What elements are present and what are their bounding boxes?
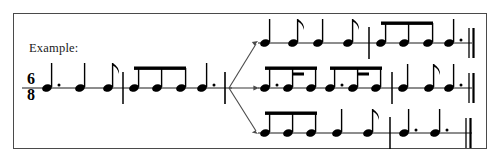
branch-arrows [229,41,259,134]
note-bottom-4-quarter [331,109,343,138]
note-middle-6-eighth [370,68,382,93]
note-top-3-quarter [312,19,324,48]
note-top-2-eighth [287,19,304,48]
note-middle-3-eighth [305,68,317,93]
note-bottom-5-eighth [362,109,379,138]
beam-group-bottom-1 [259,112,317,139]
note-middle-2-sixteenth [282,68,294,93]
beam-group-source-1 [128,67,187,94]
note-bottom-1-eighth [259,113,271,138]
beam-group-middle-2 [324,67,382,94]
note-bottom-2-eighth [282,113,294,138]
note-top-5-eighth [375,23,387,48]
note-middle-8-eighth [423,64,440,93]
music-notation-canvas [0,0,503,165]
note-source-7-dotted-quarter [196,63,215,93]
note-middle-1-dotted-eighth [259,68,278,93]
note-top-8-dotted-quarter [443,19,462,48]
branch-arrow-top [229,41,258,88]
note-source-1-dotted-quarter [41,63,60,93]
branch-arrow-bottom [229,88,258,134]
note-source-6-eighth [175,68,187,93]
variation-staff-middle [258,64,474,104]
note-top-7-eighth [422,23,434,48]
note-bottom-6-dotted-quarter [398,109,417,138]
note-top-1-quarter [259,19,271,48]
note-middle-5-sixteenth [347,68,359,93]
variation-staff-top [258,19,474,59]
note-bottom-7-dotted-quarter [429,109,448,138]
note-bottom-3-eighth [305,113,317,138]
variation-staff-bottom [258,109,472,149]
beam-group-middle-1 [259,67,317,94]
note-middle-4-dotted-eighth [324,68,343,93]
note-source-3-eighth [102,63,119,93]
note-middle-7-quarter [397,64,409,93]
note-top-4-eighth [342,19,359,48]
source-staff [22,63,232,104]
note-source-4-eighth [128,68,140,93]
branch-arrow-middle [229,86,259,91]
note-middle-9-dotted-quarter [443,64,462,93]
note-source-2-quarter [74,63,86,93]
beam-group-top-1 [375,22,434,49]
note-top-6-eighth [398,23,410,48]
figure-page: Example: 6 8 [0,0,503,165]
note-source-5-eighth [151,68,163,93]
